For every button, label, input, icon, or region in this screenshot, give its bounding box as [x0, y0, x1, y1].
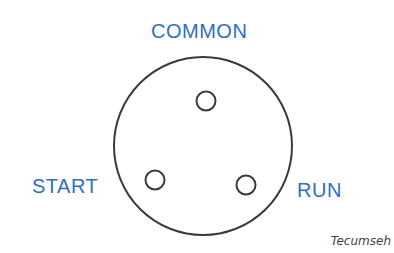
common-terminal-pin — [197, 92, 216, 111]
start-label: START — [32, 176, 98, 196]
terminal-housing-circle — [114, 57, 292, 235]
terminal-diagram: COMMON START RUN Tecumseh — [0, 0, 394, 253]
run-label: RUN — [297, 180, 342, 200]
run-terminal-pin — [237, 176, 256, 195]
common-label: COMMON — [151, 21, 247, 41]
brand-label: Tecumseh — [331, 235, 391, 247]
start-terminal-pin — [146, 171, 165, 190]
